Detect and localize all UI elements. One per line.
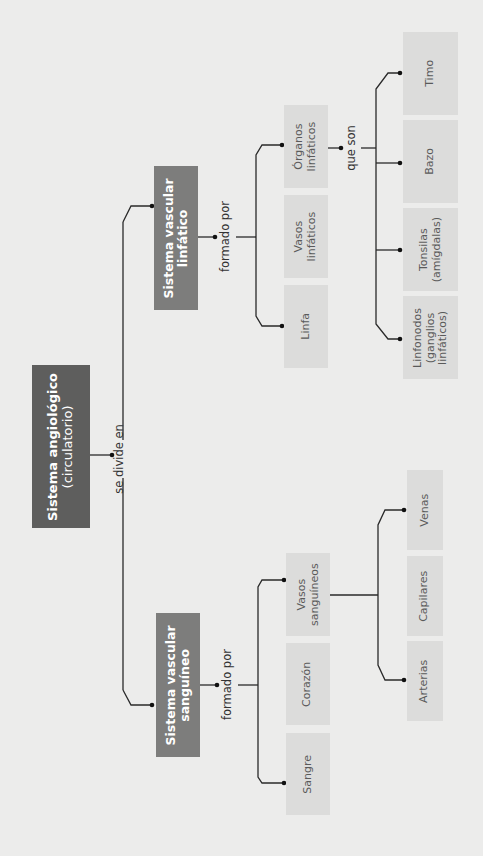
node-linfa: Linfa [284, 285, 328, 368]
node-sangre: Sangre [286, 733, 330, 815]
node-tonsilas: Tonsilas(amígdalas) [403, 208, 458, 291]
node-timo: Timo [403, 32, 458, 115]
node-arterias: Arterias [407, 641, 443, 721]
node-venas: Venas [407, 470, 443, 550]
node-capilares: Capilares [407, 556, 443, 636]
root-title: Sistema angiológico [45, 373, 60, 521]
node-vasos-sanguineos: Vasossanguíneos [286, 553, 330, 636]
sanguineo-connector-label: formado por [220, 650, 234, 720]
root-subtitle: (circulatorio) [61, 373, 76, 521]
node-vasos-linfaticos: Vasoslinfáticos [284, 195, 328, 278]
linfatico-connector-label: formado por [218, 202, 232, 272]
node-sistema-vascular-linfatico: Sistema vascular linfático [154, 166, 198, 310]
node-bazo: Bazo [403, 120, 458, 203]
node-organos-linfaticos: Órganoslinfáticos [284, 105, 328, 188]
node-corazon: Corazón [286, 643, 330, 725]
organos-connector-label: que son [344, 113, 358, 183]
node-linfonodos: Linfonodos(ganglioslinfáticos) [403, 296, 458, 379]
root-connector-label: se divide en [112, 424, 126, 494]
root-node: Sistema angiológico (circulatorio) [32, 365, 90, 528]
node-sistema-vascular-sanguineo: Sistema vascular sanguíneo [156, 613, 200, 757]
